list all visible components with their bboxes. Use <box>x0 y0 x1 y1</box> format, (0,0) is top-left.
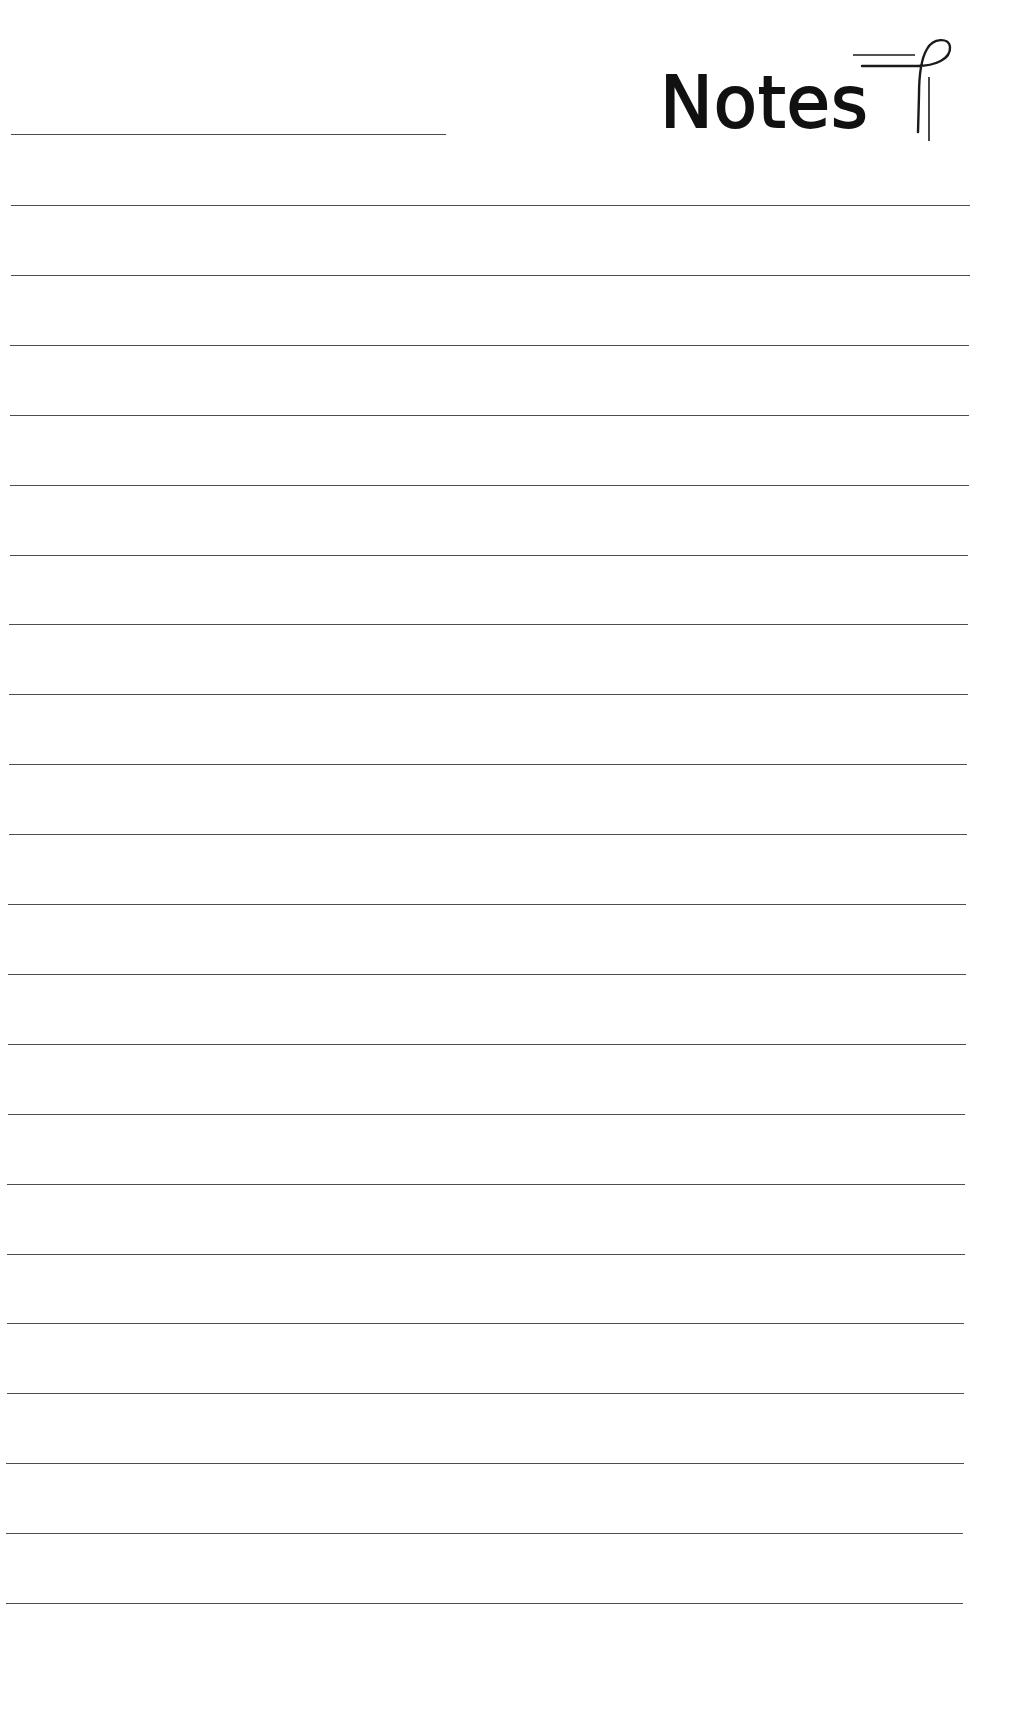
note-line-input[interactable] <box>9 636 968 692</box>
ruled-line <box>8 974 966 975</box>
ruled-line <box>11 205 970 206</box>
note-line-input[interactable] <box>11 217 970 273</box>
ruled-line <box>8 904 966 905</box>
note-line-input[interactable] <box>6 1405 964 1461</box>
ruled-line <box>6 1603 963 1604</box>
note-line-input[interactable] <box>6 1545 963 1601</box>
ruled-line <box>11 275 970 276</box>
ruled-line <box>7 1254 965 1255</box>
ruled-line <box>10 555 968 556</box>
ruled-line <box>9 764 967 765</box>
note-line-input[interactable] <box>8 846 966 902</box>
note-line-input[interactable] <box>7 1335 964 1391</box>
note-line-input[interactable] <box>10 427 969 483</box>
ruled-lines-area <box>0 0 1019 1719</box>
note-line-input[interactable] <box>11 147 970 203</box>
ruled-line <box>6 1463 964 1464</box>
note-line-input[interactable] <box>9 776 967 832</box>
note-line-input[interactable] <box>9 706 967 762</box>
ruled-line <box>6 1533 963 1534</box>
ruled-line <box>9 694 968 695</box>
note-line-input[interactable] <box>7 1196 965 1252</box>
note-line-input[interactable] <box>8 986 966 1042</box>
note-line-input[interactable] <box>8 916 966 972</box>
note-line-input[interactable] <box>10 497 968 553</box>
ruled-line <box>7 1323 964 1324</box>
ruled-line <box>7 1184 965 1185</box>
notes-page: Notes <box>0 0 1019 1719</box>
note-line-input[interactable] <box>10 357 969 413</box>
ruled-line <box>10 415 969 416</box>
ruled-line <box>8 1114 965 1115</box>
ruled-line <box>9 834 967 835</box>
note-line-input[interactable] <box>6 1475 963 1531</box>
ruled-line <box>7 1393 964 1394</box>
note-line-input[interactable] <box>8 1056 965 1112</box>
ruled-line <box>10 345 969 346</box>
note-line-input[interactable] <box>10 287 969 343</box>
note-line-input[interactable] <box>9 566 968 622</box>
ruled-line <box>10 485 969 486</box>
note-line-input[interactable] <box>7 1126 965 1182</box>
ruled-line <box>9 624 968 625</box>
note-line-input[interactable] <box>7 1265 964 1321</box>
ruled-line <box>8 1044 966 1045</box>
